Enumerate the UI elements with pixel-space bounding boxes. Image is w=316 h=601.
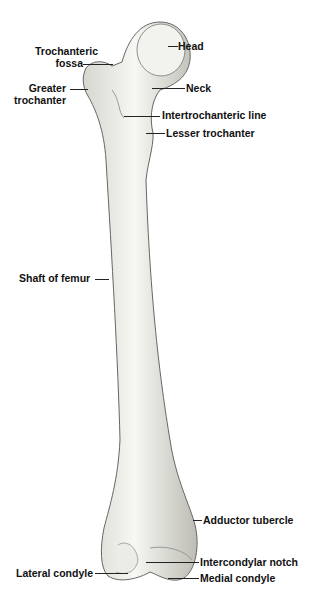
label-shaft-of-femur: Shaft of femur <box>19 273 90 284</box>
label-intercondylar-notch: Intercondylar notch <box>200 557 298 568</box>
label-medial-condyle: Medial condyle <box>200 573 275 584</box>
leader-line <box>95 279 109 280</box>
leader-line <box>193 520 202 521</box>
leader-line <box>146 562 199 563</box>
leader-line <box>124 116 160 117</box>
leader-line <box>146 133 165 134</box>
label-greater-trochanter-2: trochanter <box>10 95 66 106</box>
label-lateral-condyle: Lateral condyle <box>16 568 93 579</box>
leader-line <box>152 88 185 89</box>
leader-line <box>70 89 88 90</box>
label-intertrochanteric-line: Intertrochanteric line <box>162 110 266 121</box>
leader-line <box>168 46 178 47</box>
leader-line <box>83 64 113 65</box>
leader-line <box>95 573 128 574</box>
label-adductor-tubercle: Adductor tubercle <box>203 515 293 526</box>
label-greater-trochanter-1: Greater <box>20 83 66 94</box>
label-trochanteric-fossa-2: fossa <box>28 58 83 69</box>
leader-line <box>168 578 199 579</box>
label-trochanteric-fossa-1: Trochanteric <box>28 46 98 57</box>
label-neck: Neck <box>186 83 211 94</box>
label-lesser-trochanter: Lesser trochanter <box>166 128 255 139</box>
label-head: Head <box>178 41 204 52</box>
